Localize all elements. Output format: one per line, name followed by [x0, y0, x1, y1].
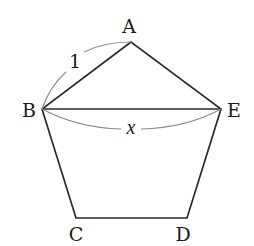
vertex-label-E: E — [227, 99, 241, 121]
arc-BE-right — [141, 109, 221, 129]
vertex-label-D: D — [175, 223, 190, 245]
vertex-label-C: C — [69, 223, 84, 245]
vertex-label-A: A — [121, 15, 136, 37]
arc-BE-left — [42, 109, 121, 129]
measure-label-BE: x — [126, 116, 136, 138]
arc-AB-lower — [42, 72, 66, 109]
pentagon-diagram: A B C D E 1 x — [0, 0, 254, 246]
vertex-label-B: B — [22, 99, 36, 121]
measure-label-AB: 1 — [69, 50, 81, 72]
